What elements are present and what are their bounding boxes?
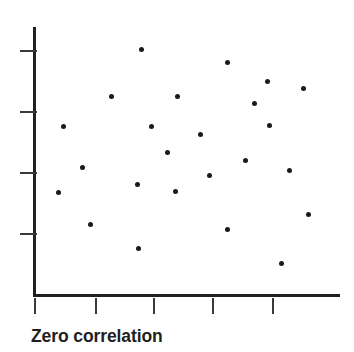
- data-point: [109, 94, 114, 99]
- data-point: [287, 168, 292, 173]
- chart-caption: Zero correlation: [31, 326, 163, 347]
- x-axis-tick: [95, 298, 97, 314]
- data-point: [139, 47, 144, 52]
- data-point: [252, 101, 257, 106]
- data-point: [165, 150, 170, 155]
- x-axis-tick: [272, 298, 274, 314]
- plot-area: [0, 0, 354, 320]
- data-point: [267, 123, 272, 128]
- data-point: [198, 132, 203, 137]
- scatter-plot-figure: Zero correlation: [0, 0, 354, 352]
- y-axis-tick: [20, 111, 37, 113]
- data-point: [135, 182, 140, 187]
- y-axis-line: [33, 27, 36, 297]
- data-point: [225, 227, 230, 232]
- data-point: [225, 60, 230, 65]
- x-axis-tick: [34, 298, 36, 314]
- data-point: [243, 158, 248, 163]
- data-point: [265, 79, 270, 84]
- data-point: [173, 189, 178, 194]
- data-point: [61, 124, 66, 129]
- data-point: [80, 165, 85, 170]
- data-point: [301, 86, 306, 91]
- data-point: [207, 173, 212, 178]
- y-axis-tick: [20, 50, 37, 52]
- y-axis-tick: [20, 233, 37, 235]
- x-axis-tick: [153, 298, 155, 314]
- x-axis-tick: [212, 298, 214, 314]
- data-point: [175, 94, 180, 99]
- y-axis-tick: [20, 172, 37, 174]
- data-point: [136, 246, 141, 251]
- data-point: [149, 124, 154, 129]
- data-point: [88, 222, 93, 227]
- data-point: [306, 212, 311, 217]
- data-point: [279, 261, 284, 266]
- x-axis-line: [33, 294, 340, 297]
- data-point: [56, 190, 61, 195]
